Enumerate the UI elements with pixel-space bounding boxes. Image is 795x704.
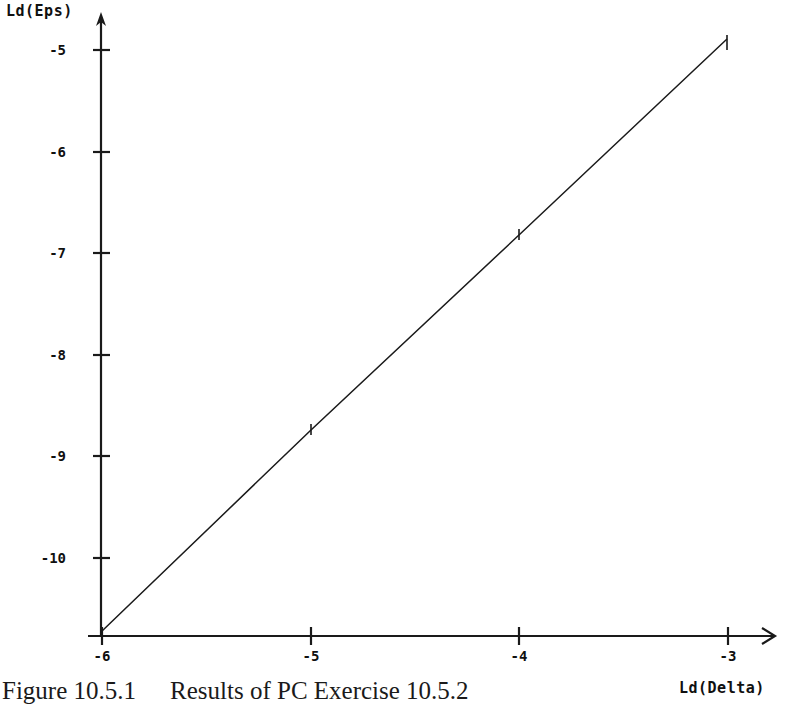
y-axis [96,12,106,636]
y-axis-label: Ld(Eps) [6,2,73,20]
figure-caption: Figure 10.5.1Results of PC Exercise 10.5… [0,676,795,704]
y-tick-label: -5 [12,42,66,58]
x-axis [88,628,775,644]
y-tick-label: -8 [12,347,66,363]
x-tick-label: -3 [708,648,748,664]
figure-page: Ld(Eps) Ld(Delta) -5 -6 -7 -8 -9 -10 -6 … [0,0,795,704]
line-chart [0,0,795,672]
x-tick-label: -6 [82,648,122,664]
y-tick-label: -6 [12,144,66,160]
x-tick-label: -4 [499,648,539,664]
caption-title: Results of PC Exercise 10.5.2 [170,677,469,704]
y-tick-label: -10 [12,550,66,566]
data-point-markers [101,35,727,636]
y-tick-label: -7 [12,245,66,261]
caption-figure-number: Figure 10.5.1 [2,677,136,704]
y-tick-label: -9 [12,448,66,464]
x-tick-label: -5 [291,648,331,664]
data-series-line [101,39,727,632]
